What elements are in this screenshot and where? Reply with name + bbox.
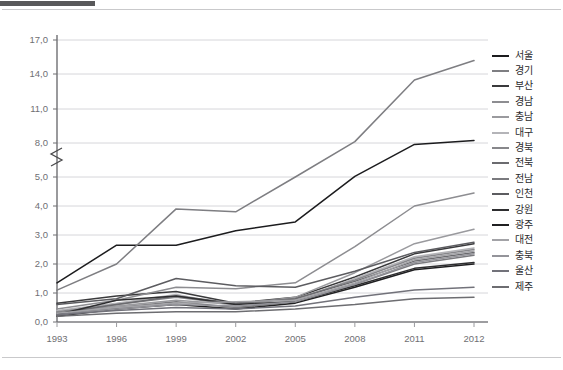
legend-item-인천[interactable]: 인천 [492,187,562,202]
legend-item-전북[interactable]: 전북 [492,156,562,171]
legend-item-강원[interactable]: 강원 [492,202,562,217]
legend-item-경기[interactable]: 경기 [492,63,562,78]
legend-swatch-전남 [492,178,509,180]
series-group [57,61,474,317]
x-tick-label: 2005 [285,333,306,344]
legend-item-대전[interactable]: 대전 [492,233,562,248]
series-line-경남 [57,193,474,309]
x-tick-label: 2012 [463,333,484,344]
legend-item-부산[interactable]: 부산 [492,79,562,94]
legend-swatch-대전 [492,239,509,241]
legend-item-경북[interactable]: 경북 [492,140,562,155]
legend-swatch-경남 [492,101,509,103]
legend-item-충남[interactable]: 충남 [492,110,562,125]
y-tick-label: 4,0 [35,200,48,211]
y-tick-label: 17,0 [30,34,49,45]
legend-item-광주[interactable]: 광주 [492,217,562,232]
legend-swatch-전북 [492,162,509,164]
y-tick-label: 1,0 [35,287,48,298]
y-tick-label: 3,0 [35,229,48,240]
legend-item-제주[interactable]: 제주 [492,279,562,294]
legend-swatch-강원 [492,209,509,211]
axis-break-marker [51,148,62,166]
chart-page: 0,01,02,03,04,05,08,011,014,017,01993199… [0,0,563,370]
legend-swatch-충남 [492,116,509,118]
legend-label: 서울 [515,51,533,61]
legend-label: 대구 [515,128,533,138]
grid-lines [57,40,488,322]
legend-item-대구[interactable]: 대구 [492,125,562,140]
legend-item-전남[interactable]: 전남 [492,171,562,186]
legend-swatch-울산 [492,270,509,272]
legend-swatch-제주 [492,286,509,288]
legend-label: 전남 [515,174,533,184]
legend-item-서울[interactable]: 서울 [492,48,562,63]
y-tick-label: 5,0 [35,171,48,182]
legend-swatch-경북 [492,147,509,149]
legend-label: 광주 [515,220,533,230]
legend-label: 전북 [515,158,533,168]
legend-label: 충남 [515,112,533,122]
x-tick-label: 1996 [106,333,127,344]
legend-label: 대전 [515,235,533,245]
x-axis-ticks: 19931996199920022005200820112012 [46,322,484,344]
legend-label: 경기 [515,66,533,76]
legend-label: 제주 [515,282,533,292]
chart-legend: 서울경기부산경남충남대구경북전북전남인천강원광주대전충북울산제주 [492,48,562,294]
y-tick-label: 8,0 [35,137,48,148]
legend-swatch-인천 [492,193,509,195]
legend-label: 인천 [515,189,533,199]
legend-swatch-대구 [492,132,509,134]
legend-swatch-경기 [492,70,509,72]
x-tick-label: 1999 [166,333,187,344]
legend-label: 부산 [515,81,533,91]
legend-label: 울산 [515,266,533,276]
x-tick-label: 2002 [225,333,246,344]
legend-item-울산[interactable]: 울산 [492,263,562,278]
y-tick-label: 14,0 [30,68,49,79]
y-tick-label: 0,0 [35,316,48,327]
legend-label: 강원 [515,205,533,215]
legend-swatch-부산 [492,85,509,87]
y-axis-ticks: 0,01,02,03,04,05,08,011,014,017,0 [30,34,58,327]
x-tick-label: 2011 [404,333,424,344]
legend-item-경남[interactable]: 경남 [492,94,562,109]
legend-swatch-서울 [492,55,509,57]
legend-swatch-충북 [492,255,509,257]
legend-label: 경북 [515,143,533,153]
legend-item-충북[interactable]: 충북 [492,248,562,263]
legend-label: 충북 [515,251,533,261]
x-tick-label: 2008 [344,333,365,344]
legend-label: 경남 [515,97,533,107]
y-tick-label: 2,0 [35,258,48,269]
line-chart: 0,01,02,03,04,05,08,011,014,017,01993199… [0,0,563,370]
x-tick-label: 1993 [46,333,67,344]
y-tick-label: 11,0 [30,103,48,114]
legend-swatch-광주 [492,224,509,226]
